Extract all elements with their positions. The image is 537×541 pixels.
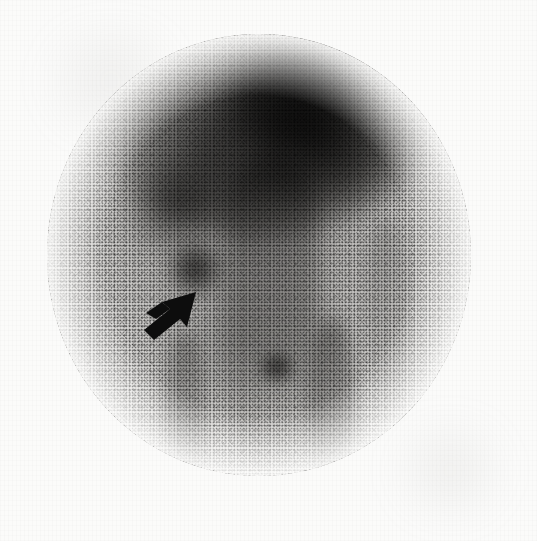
region-bone-stripe-left	[165, 334, 205, 476]
region-bone-stripe-far-right	[365, 220, 409, 420]
region-spine-column	[223, 154, 319, 464]
region-secondary-focus	[253, 346, 301, 388]
region-bone-stripe-right	[309, 320, 355, 476]
detector-field-of-view	[47, 34, 471, 476]
scintigraphy-figure	[0, 0, 537, 541]
region-focal-lesion	[159, 234, 231, 304]
